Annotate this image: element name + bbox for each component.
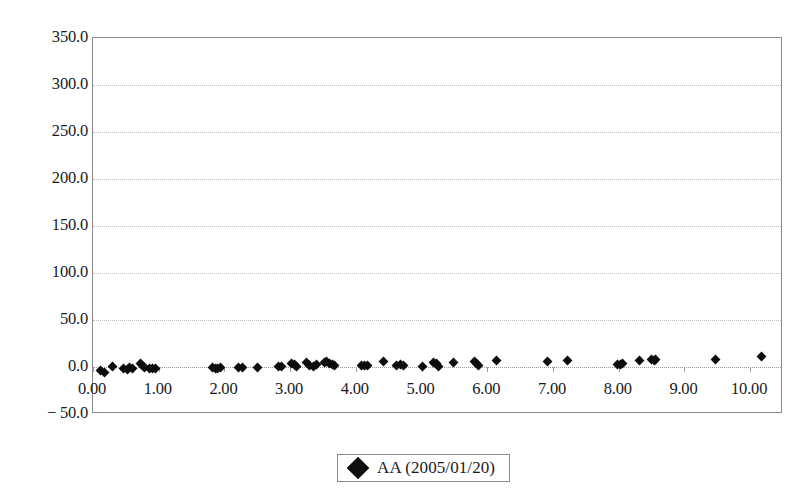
x-tick-10 bbox=[750, 367, 751, 372]
gridline-y-50 bbox=[93, 320, 781, 321]
chart-legend: AA (2005/01/20) bbox=[337, 454, 510, 482]
x-axis-labels: 0.001.002.003.004.005.006.007.008.009.00… bbox=[92, 381, 782, 405]
x-tick-6 bbox=[487, 367, 488, 372]
legend-item-label: AA (2005/01/20) bbox=[377, 459, 495, 476]
data-point bbox=[563, 356, 573, 366]
y-tick-label-350: 350.0 bbox=[2, 29, 88, 46]
y-tick-label--50: − 50.0 bbox=[2, 405, 88, 422]
y-tick-label-0: 0.0 bbox=[2, 358, 88, 375]
y-tick-label-150: 150.0 bbox=[2, 217, 88, 234]
gridline-y-250 bbox=[93, 132, 781, 133]
x-tick-9 bbox=[684, 367, 685, 372]
legend-diamond-icon bbox=[347, 456, 370, 479]
y-tick-label-250: 250.0 bbox=[2, 123, 88, 140]
y-tick-label-100: 100.0 bbox=[2, 264, 88, 281]
data-point bbox=[635, 356, 645, 366]
y-tick-label-50: 50.0 bbox=[2, 311, 88, 328]
y-tick-label-200: 200.0 bbox=[2, 170, 88, 187]
data-point bbox=[418, 361, 428, 371]
y-tick-label-300: 300.0 bbox=[2, 76, 88, 93]
gridline-y-150 bbox=[93, 226, 781, 227]
x-tick-7 bbox=[553, 367, 554, 372]
x-tick-0 bbox=[93, 367, 94, 372]
data-point bbox=[711, 355, 721, 365]
data-point bbox=[252, 362, 262, 372]
scatter-chart: 350.0300.0250.0200.0150.0100.050.00.0− 5… bbox=[0, 0, 807, 500]
data-point bbox=[543, 357, 553, 367]
data-point bbox=[492, 355, 502, 365]
data-point bbox=[757, 352, 767, 362]
x-tick-4 bbox=[356, 367, 357, 372]
data-point bbox=[108, 362, 118, 372]
plot-area bbox=[92, 37, 782, 413]
data-point bbox=[379, 357, 389, 367]
data-point bbox=[292, 362, 302, 372]
gridline-y-300 bbox=[93, 85, 781, 86]
gridline-y-100 bbox=[93, 273, 781, 274]
gridline-y-200 bbox=[93, 179, 781, 180]
x-tick-label-10: 10.00 bbox=[704, 381, 794, 398]
y-axis-labels: 350.0300.0250.0200.0150.0100.050.00.0− 5… bbox=[0, 0, 88, 500]
